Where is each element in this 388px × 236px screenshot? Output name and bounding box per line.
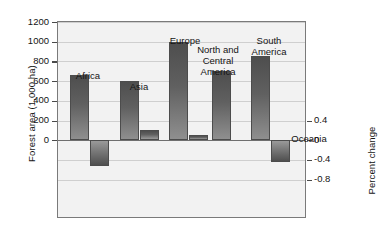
y-axis-right-tick-label: 0.4 [314, 114, 327, 125]
bar-forest-area [212, 71, 231, 140]
gridline [58, 22, 305, 23]
y-axis-left-tick-mark [52, 101, 57, 102]
y-axis-left-tick-label: 600 [33, 75, 49, 86]
y-axis-left-tick-label: 400 [33, 94, 49, 105]
y-axis-left-tick-mark [52, 61, 57, 62]
bar-forest-area [70, 75, 89, 140]
series-label: South America [243, 35, 295, 57]
y-axis-left-tick-label: 1000 [28, 35, 49, 46]
y-axis-left-tick-mark [52, 42, 57, 43]
y-axis-left-tick-mark [52, 140, 57, 141]
bar-percent-change [140, 130, 159, 140]
series-label: Africa [62, 70, 114, 81]
y-axis-left-tick-mark [52, 121, 57, 122]
series-label: North and Central America [192, 44, 244, 77]
y-axis-right-tick-mark [307, 121, 312, 122]
y-axis-left-tick-label: 800 [33, 55, 49, 66]
y-axis-left-tick-label: 1200 [28, 16, 49, 27]
y-axis-left-tick-mark [52, 22, 57, 23]
chart-figure: Forest area (1,000 ha) Percent change 12… [0, 0, 388, 236]
y-axis-left-tick-label: 0 [44, 134, 49, 145]
bar-forest-area [251, 56, 270, 140]
y-axis-right-tick-mark [307, 160, 312, 161]
y-axis-right-tick-label: -0.4 [314, 153, 330, 164]
y-axis-left-tick-label: 200 [33, 114, 49, 125]
y-axis-right-title: Percent change [366, 101, 377, 221]
series-label: Oceania [283, 133, 335, 144]
y-axis-right-tick-label: -0.8 [314, 173, 330, 184]
bar-forest-area [169, 42, 188, 141]
y-axis-left-tick-mark [52, 81, 57, 82]
bar-percent-change [189, 135, 208, 140]
y-axis-right-tick-mark [307, 180, 312, 181]
gridline [58, 180, 305, 181]
bar-percent-change [90, 140, 109, 166]
series-label: Asia [113, 81, 165, 92]
